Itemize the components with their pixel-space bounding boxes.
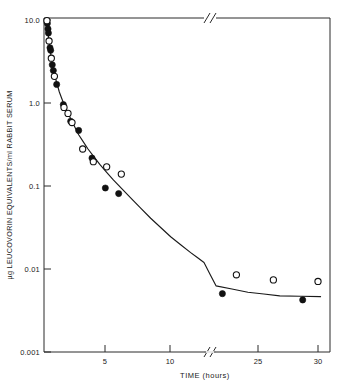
data-point-open [65, 110, 71, 116]
x-tick-label-1: 10 [166, 357, 175, 366]
data-point-filled [54, 81, 60, 87]
data-point-open [104, 164, 110, 170]
data-point-open [48, 55, 54, 61]
x-axis-title: TIME (hours) [180, 371, 230, 380]
data-point-filled [300, 297, 306, 303]
data-point-filled [219, 291, 225, 297]
axes-frame [44, 18, 330, 352]
data-point-open [315, 278, 321, 284]
y-tick-label-2: 0.1 [29, 182, 40, 191]
x-tick-label-2: 25 [254, 357, 263, 366]
y-tick-label-1: 1.0 [29, 99, 40, 108]
axis-break-top-icon [204, 13, 216, 23]
x-tick-label-0: 5 [103, 357, 107, 366]
y-tick-label-4: 0.001 [20, 348, 40, 357]
y-axis-ticks [44, 20, 51, 352]
data-point-open [270, 277, 276, 283]
data-point-filled [76, 127, 82, 133]
data-point-open [233, 272, 239, 278]
y-tick-label-3: 0.01 [25, 265, 40, 274]
data-point-filled [50, 67, 56, 73]
pharmacokinetic-chart: 10.0 1.0 0.1 0.01 0.001 5 10 25 30 TIME … [0, 0, 346, 386]
data-point-filled [49, 62, 55, 68]
y-axis-title: µg LEUCOVORIN EQUIVALENTS/ml RABBIT SERU… [5, 90, 14, 279]
fitted-curve [47, 19, 321, 296]
y-tick-label-0: 10.0 [25, 16, 40, 25]
data-point-filled [48, 47, 54, 53]
data-point-open [61, 104, 67, 110]
data-point-open [51, 73, 57, 79]
data-point-filled [116, 190, 122, 196]
data-point-open [46, 38, 52, 44]
data-point-open [80, 146, 86, 152]
x-axis-ticks [105, 345, 318, 352]
axis-break-bottom-icon [204, 347, 216, 357]
data-point-filled [102, 185, 108, 191]
data-point-open [69, 119, 75, 125]
data-markers-layer [44, 18, 321, 304]
data-point-open [90, 159, 96, 165]
x-tick-label-3: 30 [314, 357, 323, 366]
data-point-open [118, 171, 124, 177]
figure-container: 10.0 1.0 0.1 0.01 0.001 5 10 25 30 TIME … [0, 0, 346, 386]
data-point-open [44, 18, 50, 24]
data-point-filled [45, 30, 51, 36]
